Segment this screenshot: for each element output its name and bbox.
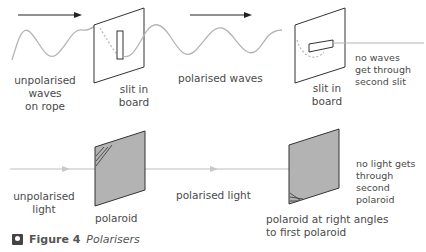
figure-caption: Figure 4 Polarisers	[12, 233, 140, 246]
lightbulb-icon	[12, 234, 23, 245]
figure-number: Figure 4	[29, 233, 80, 246]
label-polaroid-right-angles: polaroid at right angles to first polaro…	[266, 213, 388, 239]
slit-board-1	[94, 8, 144, 83]
unpolarised-wave	[12, 26, 95, 60]
label-unpolarised-waves: unpolarised waves on rope	[4, 74, 86, 113]
label-polarised-light: polarised light	[176, 189, 251, 202]
label-polarised-waves: polarised waves	[178, 72, 263, 85]
label-slit-in-board-1: slit in board	[106, 83, 162, 109]
direction-arrow-2	[190, 12, 252, 18]
label-no-light: no light gets through second polaroid	[356, 158, 426, 206]
label-unpolarised-light: unpolarised light	[6, 190, 82, 216]
label-polaroid: polaroid	[95, 212, 138, 225]
polarised-wave	[123, 25, 282, 57]
polaroid-1	[95, 131, 145, 206]
figure-title: Polarisers	[86, 233, 140, 246]
slit-board-2	[295, 8, 345, 83]
light-ray	[10, 166, 290, 172]
label-slit-in-board-2: slit in board	[302, 82, 352, 108]
direction-arrow-1	[18, 12, 82, 18]
polaroid-2	[289, 129, 339, 204]
label-no-waves: no waves get through second slit	[355, 52, 411, 88]
